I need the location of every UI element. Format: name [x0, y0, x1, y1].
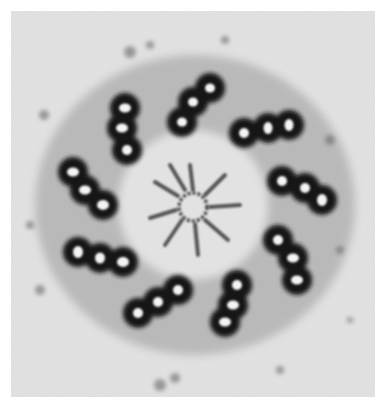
centriole-micrograph — [0, 0, 387, 404]
